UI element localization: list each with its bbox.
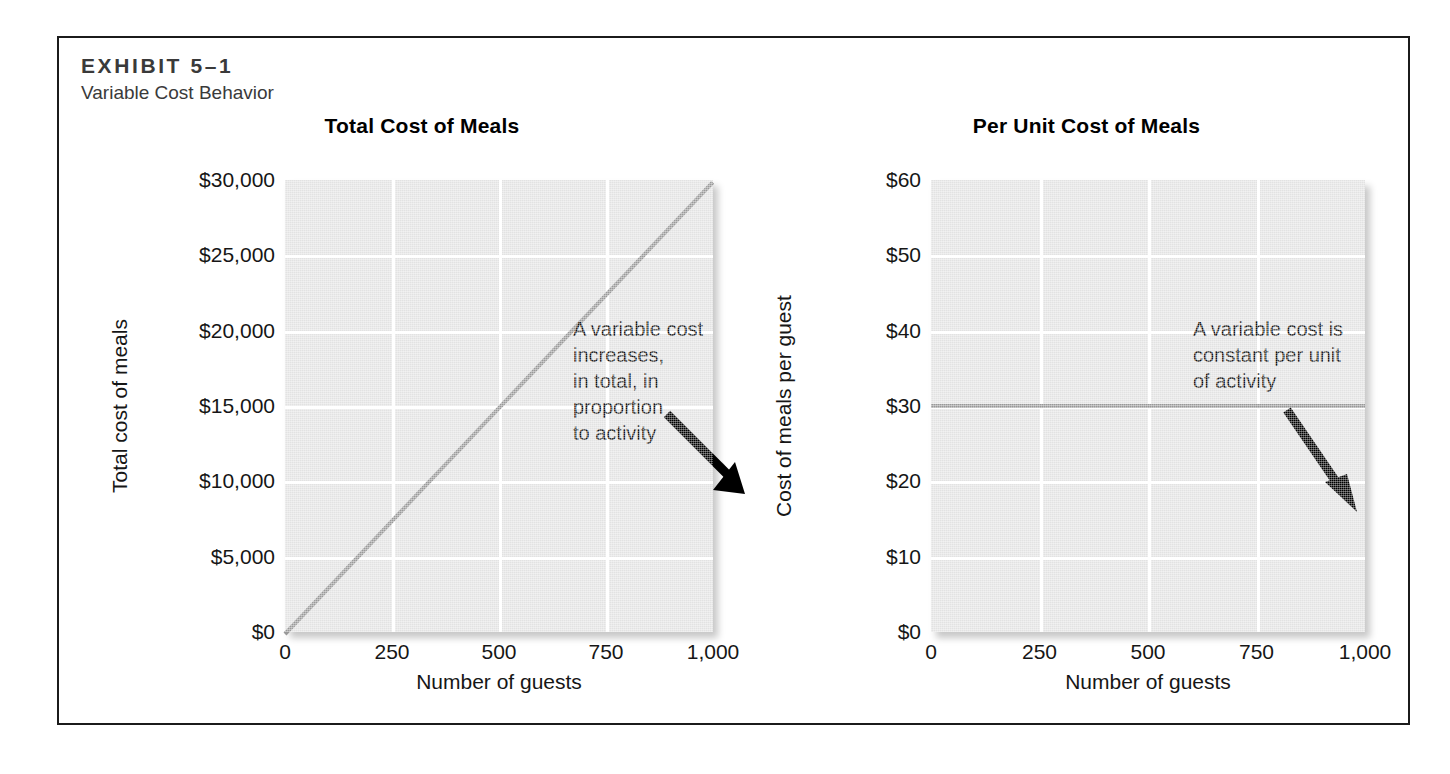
chart-title-per-unit-cost: Per Unit Cost of Meals bbox=[749, 114, 1394, 138]
y-tick-label: $15,000 bbox=[199, 394, 275, 418]
x-tick-label: 1,000 bbox=[1339, 640, 1392, 664]
y-tick-label: $40 bbox=[886, 319, 921, 343]
y-tick-label: $10,000 bbox=[199, 469, 275, 493]
x-tick-label: 750 bbox=[1239, 640, 1274, 664]
y-tick-label: $50 bbox=[886, 243, 921, 267]
y-tick-label: $25,000 bbox=[199, 243, 275, 267]
y-axis-ticks-per-unit-cost: $60 $50 $40 $30 $20 $10 $0 bbox=[829, 180, 921, 632]
annotation-arrow-icon bbox=[1285, 408, 1405, 538]
x-tick-label: 0 bbox=[925, 640, 937, 664]
y-tick-label: $10 bbox=[886, 545, 921, 569]
x-tick-label: 250 bbox=[1022, 640, 1057, 664]
x-axis-ticks-total-cost: 0 250 500 750 1,000 bbox=[285, 632, 713, 666]
x-tick-label: 0 bbox=[279, 640, 291, 664]
x-tick-label: 750 bbox=[588, 640, 623, 664]
y-tick-label: $20,000 bbox=[199, 319, 275, 343]
plot-area-per-unit-cost: A variable cost is constant per unit of … bbox=[931, 180, 1365, 632]
y-axis-ticks-total-cost: $30,000 $25,000 $20,000 $15,000 $10,000 … bbox=[145, 180, 275, 632]
x-tick-label: 1,000 bbox=[687, 640, 740, 664]
y-tick-label: $20 bbox=[886, 469, 921, 493]
chart-title-total-cost: Total Cost of Meals bbox=[77, 114, 727, 138]
chart-total-cost-of-meals: Total Cost of Meals $30,000 $25,000 $20,… bbox=[77, 114, 727, 714]
exhibit-subtitle: Variable Cost Behavior bbox=[81, 80, 274, 106]
y-tick-label: $30 bbox=[886, 394, 921, 418]
plot-background: A variable cost increases, in total, in … bbox=[285, 180, 713, 632]
y-tick-label: $0 bbox=[898, 620, 921, 644]
y-tick-label: $60 bbox=[886, 168, 921, 192]
plot-area-total-cost: A variable cost increases, in total, in … bbox=[285, 180, 713, 632]
y-tick-label: $0 bbox=[252, 620, 275, 644]
x-tick-label: 500 bbox=[1130, 640, 1165, 664]
x-tick-label: 250 bbox=[374, 640, 409, 664]
x-axis-title-per-unit-cost: Number of guests bbox=[931, 670, 1365, 694]
chart-per-unit-cost-of-meals: Per Unit Cost of Meals $60 $50 $40 $30 $… bbox=[749, 114, 1394, 714]
gridline-vertical bbox=[392, 180, 395, 632]
exhibit-frame: EXHIBIT 5–1 Variable Cost Behavior Total… bbox=[57, 36, 1410, 725]
exhibit-header: EXHIBIT 5–1 Variable Cost Behavior bbox=[81, 54, 274, 106]
y-axis-title-per-unit-cost: Cost of meals per guest bbox=[772, 180, 796, 632]
x-axis-ticks-per-unit-cost: 0 250 500 750 1,000 bbox=[931, 632, 1365, 666]
exhibit-label: EXHIBIT 5–1 bbox=[81, 54, 274, 77]
plot-background: A variable cost is constant per unit of … bbox=[931, 180, 1365, 632]
x-tick-label: 500 bbox=[481, 640, 516, 664]
x-axis-title-total-cost: Number of guests bbox=[285, 670, 713, 694]
y-tick-label: $5,000 bbox=[211, 545, 275, 569]
y-axis-title-total-cost: Total cost of meals bbox=[108, 180, 132, 632]
annotation-per-unit-cost: A variable cost is constant per unit of … bbox=[1193, 316, 1343, 394]
y-tick-label: $30,000 bbox=[199, 168, 275, 192]
